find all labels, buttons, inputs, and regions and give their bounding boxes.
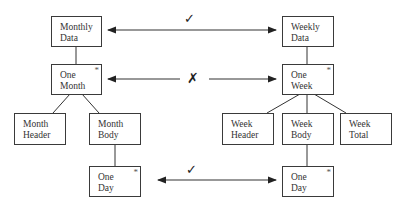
node-month-header: Month Header [14, 113, 66, 145]
node-label: Week [231, 119, 273, 130]
node-label: Week [291, 119, 333, 130]
node-label: Month [23, 119, 65, 130]
node-label: Day [291, 183, 333, 194]
iteration-marker-icon: * [327, 65, 332, 75]
node-label: Weekly [291, 22, 333, 33]
node-label: Week [349, 119, 391, 130]
node-label: Total [349, 130, 391, 141]
node-one-week: One Week * [282, 64, 334, 95]
check-icon: ✓ [184, 12, 195, 25]
node-label: Body [98, 130, 140, 141]
node-week-body: Week Body [282, 113, 334, 145]
node-month-body: Month Body [89, 113, 141, 145]
node-one-day-left: One Day * [89, 166, 141, 197]
node-label: Header [231, 130, 273, 141]
node-weekly-data: Weekly Data [282, 16, 334, 47]
iteration-marker-icon: * [327, 167, 332, 177]
check-icon: ✓ [186, 163, 197, 176]
node-label: Week [291, 81, 333, 92]
node-one-month: One Month * [51, 64, 102, 95]
node-label: Day [98, 183, 140, 194]
node-label: Header [23, 130, 65, 141]
node-label: Data [291, 33, 333, 44]
node-week-total: Week Total [340, 113, 392, 145]
iteration-marker-icon: * [95, 65, 100, 75]
node-label: Monthly [60, 22, 101, 33]
node-week-header: Week Header [222, 113, 274, 145]
cross-icon: ✗ [187, 72, 199, 85]
node-label: Month [98, 119, 140, 130]
node-monthly-data: Monthly Data [51, 16, 102, 47]
node-label: Month [60, 81, 101, 92]
iteration-marker-icon: * [134, 167, 139, 177]
node-label: Body [291, 130, 333, 141]
node-label: Data [60, 33, 101, 44]
node-one-day-right: One Day * [282, 166, 334, 197]
